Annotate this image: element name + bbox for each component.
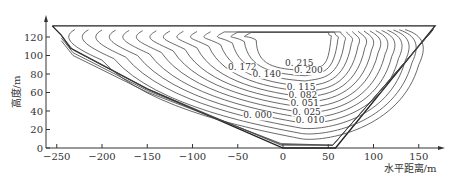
contour-label: 0. 010 bbox=[296, 115, 325, 125]
contour-line bbox=[61, 30, 433, 146]
contour-line bbox=[61, 30, 433, 146]
contour-label: 0. 140 bbox=[252, 69, 281, 79]
x-tick-label: 100 bbox=[364, 151, 383, 162]
contour-chart: −250−200−150−100−50050100150 02040608010… bbox=[0, 0, 459, 180]
y-tick-label: 0 bbox=[37, 143, 43, 154]
contour-labels: 0. 2150. 2000. 1720. 1400. 1150. 0820. 0… bbox=[227, 58, 325, 125]
x-axis-title: 水平距离/m bbox=[384, 162, 437, 174]
y-tick-label: 60 bbox=[30, 87, 43, 98]
y-tick-label: 40 bbox=[30, 106, 43, 117]
y-tick-label: 20 bbox=[30, 124, 43, 135]
x-ticks: −250−200−150−100−50050100150 bbox=[43, 144, 428, 162]
contour-lines bbox=[61, 30, 433, 146]
x-tick-label: −200 bbox=[88, 151, 115, 162]
x-tick-label: 150 bbox=[409, 151, 428, 162]
y-tick-label: 100 bbox=[24, 50, 43, 61]
y-axis-title: 高度/m bbox=[10, 75, 22, 108]
x-tick-label: −100 bbox=[179, 151, 206, 162]
y-tick-label: 80 bbox=[30, 69, 43, 80]
contour-label: 0. 200 bbox=[294, 65, 323, 75]
x-tick-label: −250 bbox=[43, 151, 70, 162]
x-tick-label: 0 bbox=[280, 151, 286, 162]
x-tick-label: −150 bbox=[134, 151, 161, 162]
contour-line bbox=[61, 30, 433, 146]
x-axis-arrow-icon bbox=[438, 146, 445, 150]
y-axis-arrow-icon bbox=[44, 15, 48, 22]
x-tick-label: −50 bbox=[227, 151, 248, 162]
y-tick-label: 120 bbox=[24, 32, 43, 43]
contour-label: 0. 000 bbox=[243, 110, 272, 120]
x-tick-label: 50 bbox=[322, 151, 335, 162]
